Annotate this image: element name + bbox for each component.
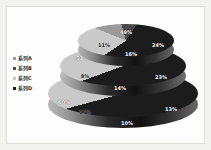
data-label: 14% xyxy=(114,85,126,91)
data-label: 60% xyxy=(58,99,70,105)
data-label: 11% xyxy=(98,42,110,48)
legend-label: 系列D xyxy=(18,85,32,91)
data-label: 23% xyxy=(155,74,167,80)
pie-tier-top: 49% 11% 16% 24% xyxy=(78,24,174,66)
legend-label: 系列A xyxy=(18,55,32,61)
chart-screenshot: 系列A 系列B 系列C 系列D 60% 17% 10% 13% xyxy=(0,0,211,150)
legend-label: 系列C xyxy=(18,75,32,81)
tiered-pie-chart: 60% 17% 10% 13% 53% 8% 14% 23% 49% 11% 1… xyxy=(46,18,206,138)
data-label: 10% xyxy=(121,120,133,126)
legend-label: 系列B xyxy=(18,65,32,71)
data-label: 13% xyxy=(165,106,177,112)
legend-swatch-icon xyxy=(13,57,16,60)
data-label: 49% xyxy=(120,29,132,35)
legend-swatch-icon xyxy=(13,67,16,70)
data-label: 24% xyxy=(152,42,164,48)
data-label: 17% xyxy=(79,109,91,115)
legend-swatch-icon xyxy=(13,87,16,90)
legend-swatch-icon xyxy=(13,77,16,80)
data-label: 8% xyxy=(81,73,90,79)
data-label: 16% xyxy=(125,51,137,57)
